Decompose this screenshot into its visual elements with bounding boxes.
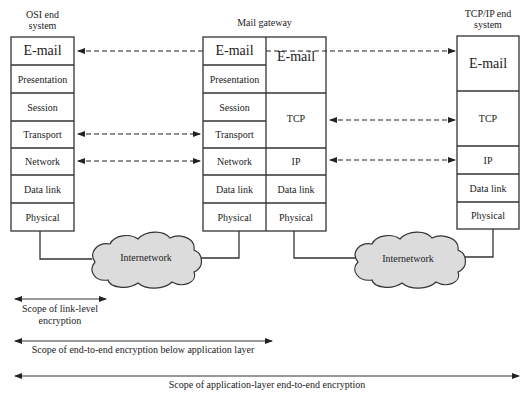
- tcpip-layer-email: E-mail: [457, 36, 519, 91]
- tcpip-title-line1: TCP/IP end: [450, 8, 526, 19]
- gateway-osi-layer-physical: Physical: [203, 203, 266, 231]
- tcpip-layer-physical: Physical: [457, 202, 519, 229]
- gateway-osi-layer-network: Network: [203, 148, 266, 175]
- scope-link-level-label: Scope of link-level encryption: [10, 303, 110, 327]
- tcpip-title-line2: system: [450, 19, 526, 30]
- scope-link-level-line1: Scope of link-level: [10, 303, 110, 315]
- osi-title-line1: OSI end: [11, 9, 74, 20]
- osi-layer-datalink: Data link: [11, 175, 74, 203]
- osi-layer-presentation: Presentation: [11, 65, 74, 93]
- tcpip-system-title: TCP/IP end system: [450, 8, 526, 30]
- osi-system-title: OSI end system: [11, 9, 74, 31]
- cloud-left-label: Internetwork: [110, 252, 182, 263]
- gateway-osi-layer-datalink: Data link: [203, 175, 266, 203]
- osi-layer-network: Network: [11, 148, 74, 175]
- gateway-tcpip-layer-tcp: TCP: [266, 93, 326, 148]
- osi-layer-email: E-mail: [11, 37, 74, 65]
- scope-end-to-end-label: Scope of end-to-end encryption below app…: [18, 344, 268, 356]
- osi-layer-session: Session: [11, 93, 74, 121]
- gateway-osi-layer-session: Session: [203, 93, 266, 121]
- gateway-title: Mail gateway: [203, 17, 326, 28]
- osi-layer-physical: Physical: [11, 203, 74, 231]
- scope-application-layer-label: Scope of application-layer end-to-end en…: [15, 379, 519, 391]
- gateway-tcpip-layer-email: E-mail: [266, 37, 326, 93]
- cloud-right-label: Internetwork: [372, 253, 444, 264]
- osi-layer-transport: Transport: [11, 121, 74, 148]
- tcpip-layer-datalink: Data link: [457, 174, 519, 202]
- scope-link-level-line2: encryption: [10, 315, 110, 327]
- gateway-osi-layer-presentation: Presentation: [203, 65, 266, 93]
- tcpip-layer-ip: IP: [457, 146, 519, 174]
- gateway-osi-layer-transport: Transport: [203, 121, 266, 148]
- gateway-tcpip-layer-physical: Physical: [266, 203, 326, 231]
- gateway-tcpip-layer-ip: IP: [266, 148, 326, 175]
- gateway-osi-layer-email: E-mail: [203, 37, 266, 65]
- tcpip-layer-tcp: TCP: [457, 91, 519, 146]
- osi-title-line2: system: [11, 20, 74, 31]
- gateway-tcpip-layer-datalink: Data link: [266, 175, 326, 203]
